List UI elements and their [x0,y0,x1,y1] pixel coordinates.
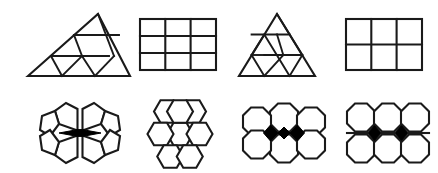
figure-subdivided-flat-triangle [24,10,134,80]
figure-rectangle-grid-3x3 [138,17,218,72]
triangle-subdivision-lines [51,14,119,76]
figure-sheet [0,0,438,173]
dark-gap-diamonds [264,125,305,141]
figure-octagon-grid-dark-diamonds [346,101,430,165]
figure-octagon-cluster-dark-band [243,101,325,165]
grid-outline [140,19,216,70]
hexagon-faces [148,100,213,168]
pentagon-rosette-svg [34,100,126,166]
figure-subdivided-equilateral-triangle [237,10,319,80]
subdivided-equilateral-triangle-svg [237,10,319,80]
figure-rectangle-grid-3x2 [344,17,424,72]
subdivided-flat-triangle-svg [24,10,134,80]
triangle-outline [239,14,315,76]
triangle-outline [28,14,130,76]
figure-hexagon-flower [140,98,220,170]
grid-inner-lines [140,19,216,70]
octagon-grid-dark-diamonds-svg [346,101,430,165]
rectangle-grid-3x3-svg [138,17,218,72]
rectangle-grid-3x2-svg [344,17,424,72]
dark-lens-center [59,130,101,137]
hexagon-flower-svg [140,98,220,170]
grid-inner-lines [346,19,422,70]
octagon-cluster-dark-band-svg [243,101,325,165]
figure-pentagon-rosette [34,100,126,166]
